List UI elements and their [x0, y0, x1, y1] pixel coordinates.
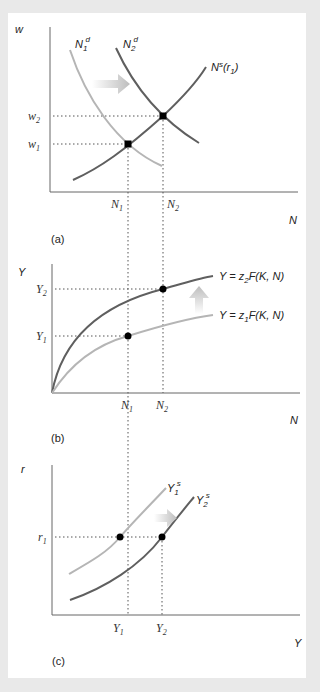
w2-tick: w2	[28, 109, 40, 125]
n2-tick: N2	[166, 197, 179, 213]
y2-tick: Y2	[156, 621, 167, 637]
supply-point-1	[117, 534, 124, 541]
labor-demand-2-curve	[116, 48, 199, 143]
production-z2-label: Y = z2F(K, N)	[219, 270, 284, 285]
production-z1-label: Y = z1F(K, N)	[219, 309, 284, 324]
shift-right-arrow-icon	[92, 74, 130, 94]
x-axis-label: Y	[294, 637, 302, 649]
n1-tick: N1	[120, 398, 133, 414]
economics-diagram: w N N1d N2d Ns(r1) w2 w1 N1 N2 (a) Y N	[0, 0, 320, 692]
ns-label: Ns(r1)	[211, 60, 239, 76]
panel-b: Y N Y = z2F(K, N) Y = z1F(K, N) Y2 Y1 N1…	[18, 264, 300, 444]
output-supply-1-curve	[69, 488, 166, 574]
y1-tick: Y1	[113, 621, 124, 637]
equilibrium-point-2	[160, 113, 167, 120]
output-point-1	[125, 333, 132, 340]
supply-point-2	[159, 534, 166, 541]
y1s-label: Y1s	[167, 479, 181, 497]
output-point-2	[160, 286, 167, 293]
y-axis-label: Y	[18, 266, 26, 278]
n2-tick: N2	[155, 398, 168, 414]
x-axis-label: N	[289, 214, 297, 226]
panel-c: r Y Y1s Y2s r1 Y1 Y2 (c)	[21, 463, 302, 667]
equilibrium-point-1	[125, 141, 132, 148]
y2s-label: Y2s	[196, 491, 210, 509]
y-axis-label: r	[21, 463, 26, 475]
labor-demand-1-curve	[70, 50, 162, 166]
n1d-label: N1d	[75, 35, 90, 53]
production-function-z1-curve	[52, 315, 213, 393]
y1-tick: Y1	[36, 329, 47, 345]
panel-b-label: (b)	[51, 432, 64, 444]
n2d-label: N2d	[123, 35, 138, 53]
y2-tick: Y2	[36, 282, 47, 298]
shift-right-arrow-icon	[154, 509, 177, 527]
panel-c-label: (c)	[52, 655, 65, 667]
panel-a-label: (a)	[51, 233, 64, 245]
r1-tick: r1	[38, 530, 47, 546]
shift-up-arrow-icon	[189, 286, 209, 314]
output-supply-2-curve	[70, 497, 194, 600]
y-axis-label: w	[15, 23, 24, 35]
x-axis-label: N	[290, 414, 298, 426]
w1-tick: w1	[28, 137, 40, 153]
n1-tick: N1	[110, 197, 123, 213]
